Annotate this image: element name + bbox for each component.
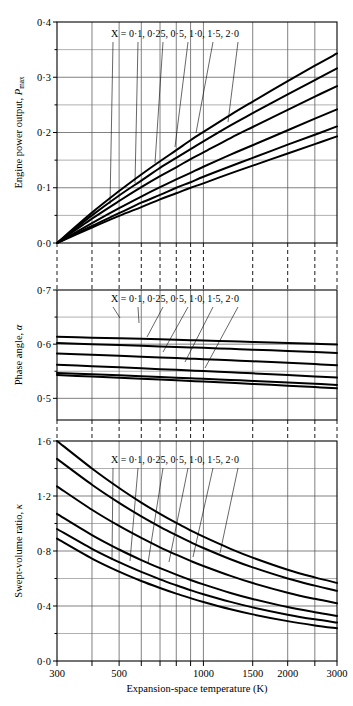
data-curve (57, 136, 337, 243)
y-tick-label: 0·2 (37, 127, 51, 138)
series-leader-line (205, 307, 238, 368)
series-annotation-label: X = 0·1, 0·25, 0·5, 1·0, 1·5, 2·0 (111, 454, 239, 465)
x-tick-label: 500 (111, 668, 127, 679)
y-tick-label: 0·1 (37, 182, 51, 193)
series-leader-line (110, 42, 113, 204)
data-curve (57, 353, 337, 365)
series-annotation-label: X = 0·1, 0·25, 0·5, 1·0, 1·5, 2·0 (111, 28, 239, 39)
y-tick-label: 0·6 (37, 339, 51, 350)
series-leader-line (193, 468, 213, 557)
y-axis-title: Swept-volume ratio, κ (13, 503, 24, 597)
y-tick-label: 1·6 (37, 436, 51, 447)
series-leader-line (155, 42, 163, 163)
x-tick-label: 1500 (242, 668, 263, 679)
y-tick-label: 0·4 (37, 601, 52, 612)
series-leader-line (169, 468, 188, 562)
series-leader-line (185, 307, 213, 362)
series-leader-line (228, 42, 238, 122)
series-leader-line (220, 468, 238, 553)
y-tick-label: 0·7 (37, 285, 51, 296)
series-leader-line (135, 42, 138, 183)
series-leader-line (175, 42, 188, 147)
y-tick-label: 0·0 (37, 656, 51, 667)
y-tick-label: 0·4 (37, 17, 52, 28)
figure-svg: 0·00·10·20·30·4Engine power output, Pmax… (0, 0, 353, 706)
series-leader-line (147, 307, 163, 337)
figure-root: 0·00·10·20·30·4Engine power output, Pmax… (0, 0, 353, 706)
series-annotation-label: X = 0·1, 0·25, 0·5, 1·0, 1·5, 2·0 (111, 293, 239, 304)
y-tick-label: 0·8 (37, 546, 51, 557)
panels-layer: 0·00·10·20·30·4Engine power output, Pmax… (13, 17, 337, 667)
y-tick-label: 0·5 (37, 393, 51, 404)
series-leader-line (138, 307, 139, 323)
data-curve (57, 343, 337, 353)
series-leader-line (196, 42, 213, 133)
x-tick-label: 1000 (193, 668, 214, 679)
y-axis-title: Phase angle, α (13, 324, 24, 385)
series-leader-line (163, 307, 188, 352)
panel-power: 0·00·10·20·30·4Engine power output, Pmax… (13, 17, 337, 249)
y-tick-label: 0·3 (37, 72, 51, 83)
y-tick-label: 1·2 (37, 491, 51, 502)
x-tick-label: 300 (49, 668, 65, 679)
series-leader-line (148, 468, 163, 563)
x-tick-label: 2000 (277, 668, 298, 679)
x-axis-title: Expansion-space temperature (K) (126, 683, 268, 695)
panel-phase: 0·50·60·7Phase angle, αX = 0·1, 0·25, 0·… (13, 285, 337, 420)
y-axis-title: Engine power output, Pmax (13, 76, 26, 189)
panel-swept-volume: 0·00·40·81·21·6Swept-volume ratio, κX = … (13, 436, 337, 667)
y-tick-label: 0·0 (37, 238, 51, 249)
x-tick-label: 3000 (327, 668, 348, 679)
data-curve (57, 375, 337, 388)
